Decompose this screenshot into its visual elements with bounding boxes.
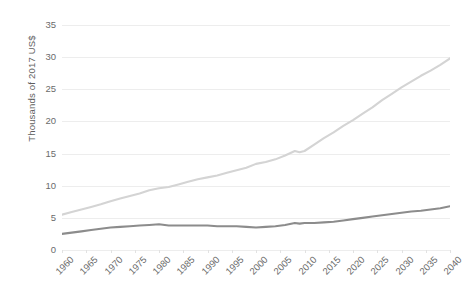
x-tick-label: 2010 [292,254,318,280]
y-tick-label: 30 [34,52,56,62]
x-tick-mark [86,250,87,253]
x-tick-label: 1995 [219,254,245,280]
x-tick-mark [426,250,427,253]
x-tick-mark [402,250,403,253]
x-tick-label: 2025 [365,254,391,280]
y-tick-label: 10 [34,181,56,191]
x-tick-mark [305,250,306,253]
x-tick-label: 1980 [147,254,173,280]
x-tick-label: 2015 [316,254,342,280]
x-axis-tick-labels: 1960196519701975198019851990199520002005… [0,250,459,296]
x-tick-mark [353,250,354,253]
x-tick-mark [377,250,378,253]
x-tick-label: 1975 [122,254,148,280]
x-tick-mark [208,250,209,253]
x-tick-label: 2035 [413,254,439,280]
x-tick-mark [62,250,63,253]
y-tick-label: 5 [34,213,56,223]
series-lines [62,25,450,250]
y-tick-label: 15 [34,149,56,159]
x-tick-label: 2000 [244,254,270,280]
x-tick-mark [280,250,281,253]
series-dark-line [62,206,450,234]
x-tick-mark [135,250,136,253]
x-tick-label: 1970 [98,254,124,280]
x-tick-mark [232,250,233,253]
x-tick-label: 2020 [341,254,367,280]
y-tick-label: 20 [34,116,56,126]
x-tick-mark [159,250,160,253]
x-tick-mark [111,250,112,253]
x-tick-label: 2030 [389,254,415,280]
x-tick-mark [450,250,451,253]
plot-area [62,25,450,250]
x-tick-label: 1965 [74,254,100,280]
x-tick-mark [256,250,257,253]
x-tick-label: 1990 [195,254,221,280]
x-tick-label: 1985 [171,254,197,280]
x-tick-mark [329,250,330,253]
x-tick-mark [183,250,184,253]
x-tick-label: 1960 [50,254,76,280]
y-tick-label: 25 [34,84,56,94]
x-tick-label: 2040 [438,254,464,280]
y-tick-label: 35 [34,20,56,30]
series-light-line [62,58,450,214]
x-tick-label: 2005 [268,254,294,280]
